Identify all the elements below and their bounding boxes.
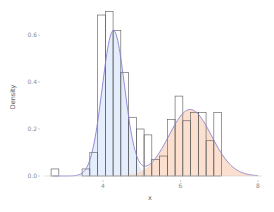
component-2-fill [53,110,258,176]
y-tick-label: 0.4 [27,78,37,85]
density-fills [53,31,258,176]
histogram-bar [51,169,59,176]
component-1-fill [53,31,258,176]
x-tick-label: 6 [179,182,183,189]
mixture-density-curve [53,31,258,177]
x-axis: 468 [101,180,260,189]
x-tick-label: 8 [256,182,260,189]
y-tick-label: 0.0 [27,172,37,179]
x-tick-label: 4 [101,182,105,189]
plot-area [44,12,262,177]
density-curves [53,31,258,177]
y-axis-title: Density [9,84,17,109]
y-tick-label: 0.2 [27,125,37,132]
y-axis: 0.00.20.40.6 [27,31,40,179]
density-histogram-chart: 0.00.20.40.6 468 x Density [0,0,274,212]
y-tick-label: 0.6 [27,31,37,38]
x-axis-title: x [148,194,152,202]
